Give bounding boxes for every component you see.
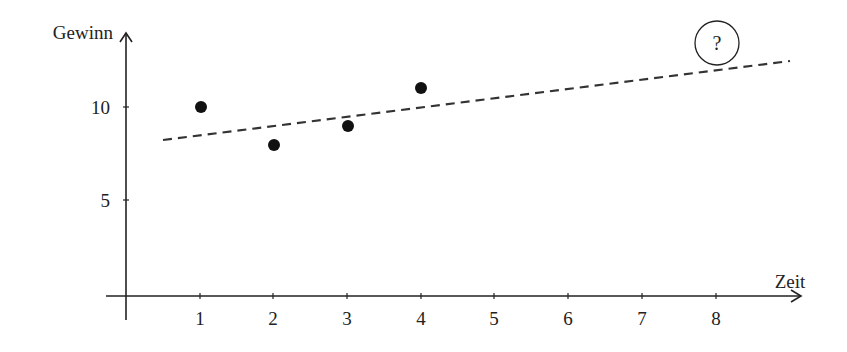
x-tick-label: 6 bbox=[563, 308, 573, 329]
question-mark: ? bbox=[713, 32, 722, 54]
x-tick-label: 5 bbox=[489, 308, 499, 329]
data-point bbox=[342, 120, 354, 132]
data-point bbox=[268, 139, 280, 151]
y-axis-label: Gewinn bbox=[53, 22, 114, 43]
x-tick-label: 3 bbox=[342, 308, 352, 329]
y-tick-label-5: 5 bbox=[101, 190, 111, 211]
x-tick-label: 1 bbox=[195, 308, 205, 329]
data-points bbox=[195, 82, 427, 151]
x-tick-label: 8 bbox=[711, 308, 721, 329]
data-point bbox=[415, 82, 427, 94]
x-tick-labels: 1 2 3 4 5 6 7 8 bbox=[195, 308, 721, 329]
scatter-chart: 1 2 3 4 5 6 7 8 10 5 Gewinn Zeit ? bbox=[0, 0, 847, 352]
data-point bbox=[195, 101, 207, 113]
x-tick-label: 4 bbox=[416, 308, 426, 329]
x-tick-label: 7 bbox=[637, 308, 647, 329]
x-axis-label: Zeit bbox=[775, 271, 806, 292]
x-tick-label: 2 bbox=[268, 308, 278, 329]
y-tick-label-10: 10 bbox=[91, 97, 110, 118]
chart-container: 1 2 3 4 5 6 7 8 10 5 Gewinn Zeit ? bbox=[0, 0, 847, 352]
trend-line bbox=[163, 61, 790, 140]
